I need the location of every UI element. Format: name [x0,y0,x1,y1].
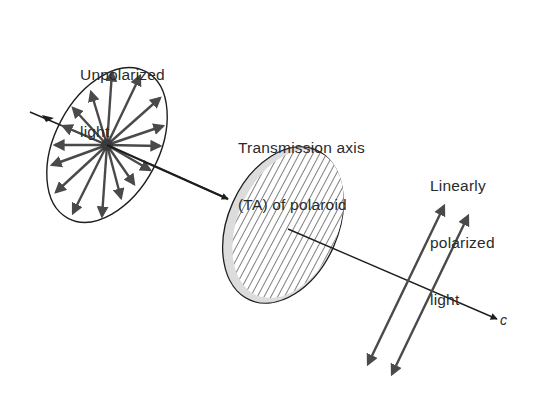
label-linearly-polarized-light: Linearly polarized light [430,138,495,328]
axis-arrow-to-polaroid [150,164,228,199]
label-unpolarized-light: Unpolarized light [80,27,165,160]
label-propagation-c: c [500,312,507,328]
label-transmission-axis: Transmission axis (TA) of polaroid [238,100,365,233]
